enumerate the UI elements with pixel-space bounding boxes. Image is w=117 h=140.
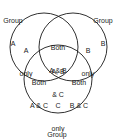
region-c-only: C only [52,87,65,140]
region-ac: Both A & C [30,64,48,117]
region-bc: Both B & C [70,64,88,117]
group-b-label: Group B [93,2,112,55]
